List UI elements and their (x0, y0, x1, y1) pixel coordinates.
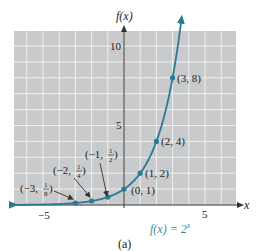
data-point (73, 200, 78, 205)
x-axis-label: x (243, 198, 250, 212)
x-tick-neg5: −5 (38, 209, 50, 221)
svg-text:1: 1 (44, 181, 48, 189)
data-point (170, 75, 175, 80)
exponential-chart: f(x) x 10 5 −5 5 (3, 8) (2, 4) (1, 2) (0… (0, 0, 263, 251)
data-point (121, 187, 126, 192)
x-tick-5: 5 (202, 208, 208, 220)
svg-text:(−2,: (−2, (53, 164, 71, 177)
data-point (154, 139, 159, 144)
function-label: f(x) = 2x (150, 221, 191, 236)
svg-text:1: 1 (77, 163, 81, 171)
svg-text:4: 4 (77, 172, 81, 180)
svg-text:1: 1 (109, 147, 113, 155)
y-tick-10: 10 (110, 40, 122, 52)
point-label-2-4: (2, 4) (161, 135, 185, 148)
svg-text:): ) (114, 148, 118, 161)
svg-text:8: 8 (44, 190, 48, 198)
point-label-0-1: (0, 1) (131, 184, 155, 197)
y-tick-5: 5 (116, 119, 122, 131)
svg-text:): ) (49, 182, 53, 195)
data-point (138, 171, 143, 176)
point-label-3-8: (3, 8) (177, 72, 201, 85)
svg-text:(−1,: (−1, (85, 148, 103, 161)
svg-text:): ) (82, 164, 86, 177)
data-point (105, 194, 110, 199)
svg-text:(−3,: (−3, (20, 182, 38, 195)
data-point (89, 198, 94, 203)
figure-caption: (a) (118, 237, 131, 251)
grid-background (14, 31, 236, 205)
svg-text:2: 2 (109, 156, 113, 164)
point-label-1-2: (1, 2) (145, 167, 169, 180)
y-axis-label: f(x) (116, 9, 133, 23)
